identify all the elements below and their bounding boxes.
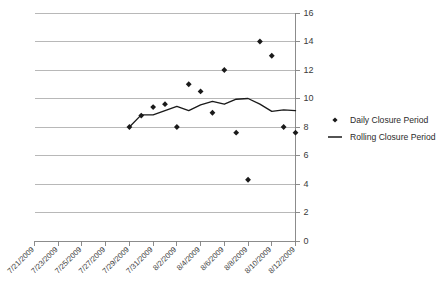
data-point-marker <box>233 130 239 136</box>
data-point-marker <box>150 104 156 110</box>
data-point-marker <box>210 110 216 116</box>
closure-period-chart: 0246810121416 7/21/20097/23/20097/25/200… <box>0 0 438 292</box>
x-tick-label: 8/6/2009 <box>198 245 225 272</box>
x-tick-label: 8/4/2009 <box>175 245 202 272</box>
chart-legend: Daily Closure PeriodRolling Closure Peri… <box>328 115 436 142</box>
y-tick-label: 16 <box>304 8 314 18</box>
data-point-marker <box>162 101 168 107</box>
data-point-marker <box>293 130 299 136</box>
y-tick-label: 4 <box>304 179 309 189</box>
legend-diamond-icon <box>332 117 337 122</box>
y-tick-label: 8 <box>304 122 309 132</box>
y-tick-labels-group: 0246810121416 <box>304 8 314 246</box>
y-tick-label: 14 <box>304 36 314 46</box>
y-tick-label: 0 <box>304 236 309 246</box>
y-axis-group <box>296 13 300 241</box>
legend-item-label: Daily Closure Period <box>350 115 429 125</box>
data-point-marker <box>257 39 263 45</box>
gridlines-group <box>35 13 296 213</box>
x-tick-labels-group: 7/21/20097/23/20097/25/20097/27/20097/29… <box>6 245 297 275</box>
chart-container: 0246810121416 7/21/20097/23/20097/25/200… <box>0 0 438 292</box>
data-point-marker <box>174 124 180 130</box>
y-tick-label: 6 <box>304 150 309 160</box>
y-tick-label: 12 <box>304 65 314 75</box>
data-point-marker <box>281 124 287 130</box>
legend-item-label: Rolling Closure Period <box>350 132 436 142</box>
y-tick-label: 2 <box>304 207 309 217</box>
data-point-marker <box>198 88 204 94</box>
x-axis-group <box>35 241 296 246</box>
data-point-marker <box>269 53 275 59</box>
data-point-marker <box>221 67 227 73</box>
x-tick-label: 8/2/2009 <box>151 245 178 272</box>
y-tick-label: 10 <box>304 93 314 103</box>
data-point-marker <box>186 81 192 87</box>
data-point-marker <box>245 177 251 183</box>
